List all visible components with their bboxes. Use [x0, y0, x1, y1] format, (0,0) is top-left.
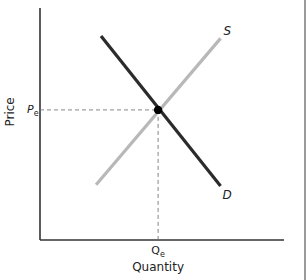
equilibrium-point	[154, 106, 162, 114]
x-axis-title: Quantity	[132, 260, 184, 274]
pe-sub: e	[34, 109, 39, 118]
right-border	[304, 0, 306, 280]
y-axis-title: Price	[3, 97, 17, 126]
demand-label: D	[223, 188, 232, 202]
supply-demand-chart: S D Pe Qe Quantity Price	[0, 0, 307, 280]
qe-sub: e	[160, 250, 165, 259]
qe-main: Q	[151, 244, 160, 257]
supply-label: S	[224, 24, 232, 38]
equilibrium-quantity-label: Qe	[151, 244, 165, 259]
equilibrium-price-label: Pe	[27, 103, 39, 118]
